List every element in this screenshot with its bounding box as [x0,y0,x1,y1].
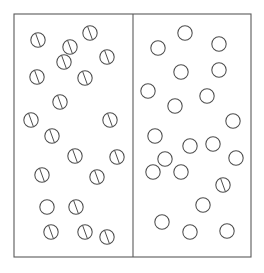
slashed-particle [45,129,59,143]
plain-particle [200,89,214,103]
particle-circle [158,152,172,166]
plain-particle [229,151,243,165]
particle-circle [229,151,243,165]
plain-particle [158,152,172,166]
slashed-particle [100,50,114,64]
plain-particle [40,200,54,214]
particle-circle [183,225,197,239]
plain-particle [183,225,197,239]
slashed-particle [90,170,104,184]
slashed-particle [44,225,58,239]
slashed-particle [69,200,83,214]
plain-particle [141,84,155,98]
particle-circle [146,165,160,179]
particle-circle [174,165,188,179]
particle-circle [174,65,188,79]
plain-particle [174,165,188,179]
plain-particle [151,41,165,55]
plain-particle [212,63,226,77]
particle-circle [226,114,240,128]
slashed-particle [110,150,124,164]
plain-particle [226,114,240,128]
plain-particle [196,198,210,212]
particle-circle [212,37,226,51]
particle-circle [200,89,214,103]
slashed-particle [68,149,82,163]
slashed-particle [30,70,44,84]
slashed-particle [63,40,77,54]
plain-particle [146,165,160,179]
particle-circle [155,215,169,229]
slashed-particle [24,113,38,127]
particle-circle [148,129,162,143]
particle-circle [206,137,220,151]
particle-circle [220,224,234,238]
particle-circle [212,63,226,77]
plain-particle [168,99,182,113]
plain-particle [174,65,188,79]
slashed-particle [53,95,67,109]
particle-circle [183,139,197,153]
particle-circle [168,99,182,113]
slashed-particle [100,230,114,244]
plain-particle [212,37,226,51]
slashed-particle [78,225,92,239]
particle-circle [196,198,210,212]
slashed-particle [103,113,117,127]
plain-particle [155,215,169,229]
plain-particle [183,139,197,153]
particle-circle [151,41,165,55]
slashed-particle [78,71,92,85]
plain-particle [220,224,234,238]
plain-particle [206,137,220,151]
plain-particle [178,26,192,40]
slashed-particle [83,26,97,40]
plain-particle [148,129,162,143]
particle-circle [40,200,54,214]
slashed-particle [31,33,45,47]
slashed-particle [35,168,49,182]
particle-circle [178,26,192,40]
slashed-particle [216,178,230,192]
two-compartment-diagram [0,0,264,273]
slashed-particle [57,55,71,69]
particle-circle [141,84,155,98]
diagram-canvas [0,0,264,273]
